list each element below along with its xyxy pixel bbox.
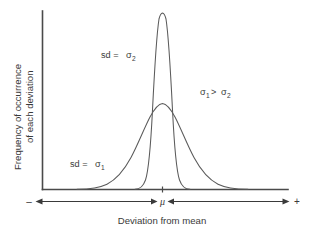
comparison-operator: >: [211, 87, 216, 97]
narrow-curve-annotation-prefix: sd =: [101, 50, 119, 60]
y-axis-title: Frequency of occurrence of each deviatio…: [12, 64, 35, 170]
y-axis-title-line2: of each deviation: [24, 70, 35, 143]
wide-normal-curve: [77, 103, 248, 189]
mu-right-arrow-head: [168, 199, 175, 205]
left-arrow-head: [36, 199, 43, 205]
normal-distribution-figure: – + μ Deviation from mean Frequency of o…: [0, 0, 309, 235]
mu-left-arrow-head: [151, 199, 158, 205]
narrow-curve-annotation: sd = σ 2: [101, 50, 136, 62]
wide-curve-annotation-prefix: sd =: [70, 159, 88, 169]
sigma-comparison-annotation: σ 1 > σ 2: [200, 87, 231, 99]
comparison-left-subscript: 1: [206, 92, 210, 99]
narrow-curve-annotation-subscript: 2: [132, 55, 136, 62]
right-arrow-head: [283, 199, 290, 205]
comparison-right-subscript: 2: [227, 92, 231, 99]
wide-curve-annotation-subscript: 1: [101, 164, 105, 171]
wide-curve-annotation: sd = σ 1: [70, 159, 105, 171]
narrow-normal-curve: [135, 13, 190, 189]
mean-symbol-label: μ: [159, 196, 165, 207]
x-axis-negative-sign: –: [26, 196, 32, 207]
x-axis-title: Deviation from mean: [118, 215, 207, 226]
x-axis-positive-sign: +: [294, 196, 300, 207]
y-axis-title-line1: Frequency of occurrence: [12, 64, 23, 170]
